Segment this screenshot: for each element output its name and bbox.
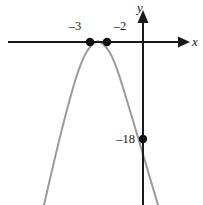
point-root-right xyxy=(103,38,111,46)
x-axis-label: x xyxy=(191,34,198,49)
point-root-left xyxy=(86,38,94,46)
graph-figure: x y –3 –2 –18 xyxy=(0,0,203,205)
label-root-right: –2 xyxy=(113,19,127,33)
y-axis-label: y xyxy=(135,0,143,15)
label-root-left: –3 xyxy=(68,19,82,33)
y-axis xyxy=(138,10,149,205)
point-y-intercept xyxy=(139,135,147,143)
label-y-intercept: –18 xyxy=(115,132,135,146)
x-axis xyxy=(8,37,190,48)
parabola-curve xyxy=(41,7,159,205)
